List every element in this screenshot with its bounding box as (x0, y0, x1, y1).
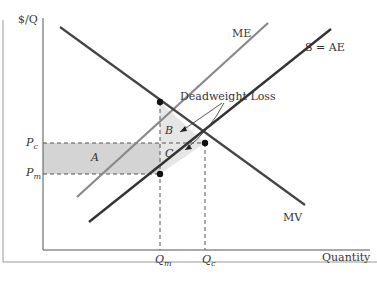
region-c-label: C (165, 147, 173, 160)
region-b-label: B (165, 124, 173, 137)
ae-label: S = AE (305, 41, 345, 54)
x-axis-label: Quantity (322, 251, 370, 264)
competitive-point (202, 140, 208, 146)
me-label: ME (232, 27, 251, 40)
y-axis-label: $/Q (18, 13, 38, 26)
deadweight-loss-label: Deadweight Loss (180, 90, 276, 103)
qc-label: Qc (202, 253, 216, 268)
region-a-label: A (91, 151, 99, 164)
me-mv-point (157, 99, 163, 105)
pc-label: Pc (26, 136, 38, 151)
mv-label: MV (283, 211, 302, 224)
region-a (43, 143, 160, 174)
qm-label: Qm (155, 253, 172, 268)
monopsony-point (157, 171, 163, 177)
pm-label: Pm (26, 166, 41, 181)
